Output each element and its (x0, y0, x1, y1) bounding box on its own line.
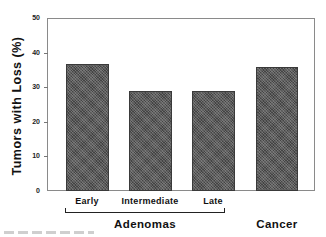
y-tick-label-40: 40 (20, 49, 40, 57)
cropped-caption (4, 231, 94, 234)
y-tick-10 (44, 156, 48, 157)
y-tick-label-20: 20 (20, 118, 40, 126)
bar-late (192, 91, 235, 191)
y-tick-label-30: 30 (20, 83, 40, 91)
y-tick-20 (44, 122, 48, 123)
x-label-late: Late (203, 196, 223, 206)
bar-intermediate (129, 91, 172, 191)
group-label-adenomas: Adenomas (114, 218, 176, 230)
y-tick-30 (44, 87, 48, 88)
y-tick-label-50: 50 (20, 14, 40, 22)
y-tick-label-0: 0 (20, 187, 40, 195)
y-tick-label-10: 10 (20, 152, 40, 160)
x-label-early: Early (75, 196, 99, 206)
bar-early (66, 64, 109, 191)
x-label-intermediate: Intermediate (121, 196, 178, 206)
adenomas-bracket (65, 208, 225, 213)
y-tick-40 (44, 53, 48, 54)
group-label-cancer: Cancer (256, 218, 297, 230)
bar-cancer (256, 67, 298, 191)
